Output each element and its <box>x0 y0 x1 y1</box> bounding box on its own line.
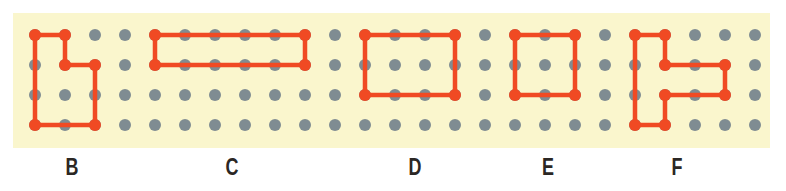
shape-f-vertex <box>629 119 641 131</box>
peg-dot <box>119 119 131 131</box>
peg-dot <box>239 89 251 101</box>
peg-dot <box>689 119 701 131</box>
peg-dot <box>689 29 701 41</box>
peg-dot <box>149 89 161 101</box>
shape-f-vertex <box>629 29 641 41</box>
peg-dot <box>449 119 461 131</box>
peg-dot <box>509 119 521 131</box>
geoboard-figure: B C D E F <box>0 0 786 191</box>
peg-dot <box>389 59 401 71</box>
shape-f-vertex <box>719 59 731 71</box>
peg-dot <box>179 89 191 101</box>
peg-dot <box>419 119 431 131</box>
shape-d-vertex <box>449 29 461 41</box>
shape-c-vertex <box>299 59 311 71</box>
peg-dot <box>749 29 761 41</box>
peg-dot <box>119 29 131 41</box>
peg-dot <box>389 119 401 131</box>
peg-dot <box>599 59 611 71</box>
peg-dot <box>119 89 131 101</box>
shape-d-vertex <box>359 29 371 41</box>
shape-f-vertex <box>659 119 671 131</box>
shape-f-vertex <box>659 89 671 101</box>
geoboard-canvas <box>0 0 786 191</box>
shape-c-vertex <box>299 29 311 41</box>
peg-dot <box>749 119 761 131</box>
peg-dot <box>179 119 191 131</box>
shape-f-vertex <box>659 59 671 71</box>
shape-b-vertex <box>89 59 101 71</box>
shape-b-vertex <box>29 119 41 131</box>
peg-dot <box>749 59 761 71</box>
peg-dot <box>359 119 371 131</box>
peg-dot <box>539 119 551 131</box>
peg-dot <box>719 29 731 41</box>
shape-d-vertex <box>359 89 371 101</box>
peg-dot <box>329 89 341 101</box>
shape-c-vertex <box>149 29 161 41</box>
peg-dot <box>419 59 431 71</box>
peg-dot <box>479 29 491 41</box>
peg-dot <box>299 119 311 131</box>
peg-dot <box>269 89 281 101</box>
peg-dot <box>479 119 491 131</box>
peg-dot <box>299 89 311 101</box>
shape-b-vertex <box>59 59 71 71</box>
peg-dot <box>239 119 251 131</box>
peg-dot <box>599 89 611 101</box>
peg-dot <box>329 29 341 41</box>
shape-f-vertex <box>659 29 671 41</box>
shape-b-vertex <box>89 119 101 131</box>
peg-dot <box>719 119 731 131</box>
peg-dot <box>209 89 221 101</box>
peg-dot <box>599 29 611 41</box>
peg-dot <box>539 59 551 71</box>
peg-dot <box>329 119 341 131</box>
peg-dot <box>479 59 491 71</box>
peg-dot <box>749 89 761 101</box>
shape-e-vertex <box>569 29 581 41</box>
shape-b-vertex <box>59 29 71 41</box>
peg-dot <box>479 89 491 101</box>
peg-dot <box>599 119 611 131</box>
peg-dot <box>149 119 161 131</box>
peg-dot <box>329 59 341 71</box>
shape-c-vertex <box>149 59 161 71</box>
peg-dot <box>119 59 131 71</box>
peg-dot <box>569 119 581 131</box>
shape-d-vertex <box>449 89 461 101</box>
shape-e-vertex <box>569 89 581 101</box>
shape-e-vertex <box>509 29 521 41</box>
shape-f-vertex <box>719 89 731 101</box>
peg-dot <box>209 119 221 131</box>
peg-dot <box>59 89 71 101</box>
peg-dot <box>269 119 281 131</box>
shape-e-vertex <box>509 89 521 101</box>
peg-dot <box>89 29 101 41</box>
shape-b-vertex <box>29 29 41 41</box>
